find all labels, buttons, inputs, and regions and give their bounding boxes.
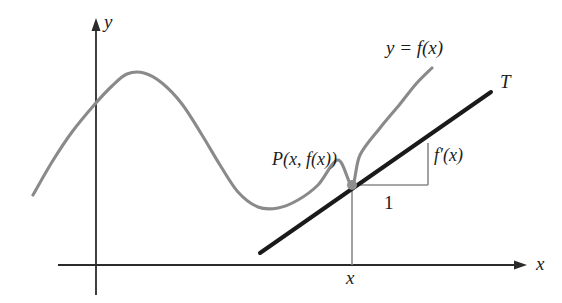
y-axis — [92, 18, 101, 295]
y-axis-label: y — [104, 12, 112, 31]
tangent-line — [260, 92, 491, 253]
x-tick-label: x — [346, 268, 354, 287]
y-axis-arrowhead — [92, 18, 101, 31]
function-curve — [33, 68, 432, 209]
run-label: 1 — [384, 193, 394, 212]
curve-equation-label: y = f(x) — [386, 38, 443, 57]
x-axis-arrowhead — [514, 261, 527, 270]
tangent-line-label: T — [500, 72, 511, 91]
tangent-line-figure: y x y = f(x) T P(x, f(x)) f′(x) 1 x — [0, 0, 562, 303]
point-p-marker — [347, 180, 357, 190]
x-axis — [58, 261, 527, 270]
rise-label: f′(x) — [434, 146, 463, 164]
point-p-label: P(x, f(x)) — [272, 150, 337, 168]
x-axis-label: x — [536, 254, 544, 273]
